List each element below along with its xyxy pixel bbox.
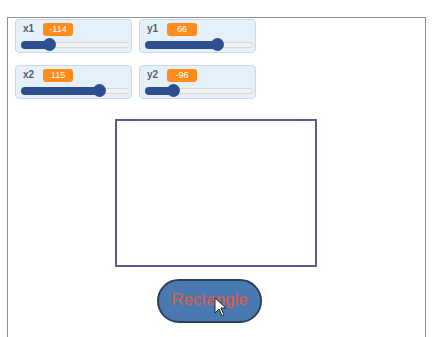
- monitor-x2: x2 115: [15, 65, 132, 99]
- slider-thumb[interactable]: [43, 38, 56, 51]
- mouse-cursor-icon: [214, 297, 228, 317]
- monitor-value: -114: [43, 23, 73, 36]
- drawn-rectangle: [115, 119, 317, 267]
- monitor-label: y2: [147, 69, 158, 80]
- monitor-label: x1: [23, 23, 34, 34]
- monitor-x1: x1 -114: [15, 19, 132, 53]
- monitor-value: 115: [43, 69, 73, 82]
- monitor-label: y1: [147, 23, 158, 34]
- rectangle-button[interactable]: Rectangle: [157, 279, 262, 323]
- monitor-value: -96: [167, 69, 197, 82]
- slider-fill: [145, 41, 217, 49]
- monitor-y1: y1 66: [139, 19, 256, 53]
- monitor-y2: y2 -96: [139, 65, 256, 99]
- slider-thumb[interactable]: [167, 84, 180, 97]
- slider-fill: [21, 87, 99, 95]
- monitor-value: 66: [167, 23, 197, 36]
- slider-thumb[interactable]: [211, 38, 224, 51]
- slider-thumb[interactable]: [93, 84, 106, 97]
- monitor-label: x2: [23, 69, 34, 80]
